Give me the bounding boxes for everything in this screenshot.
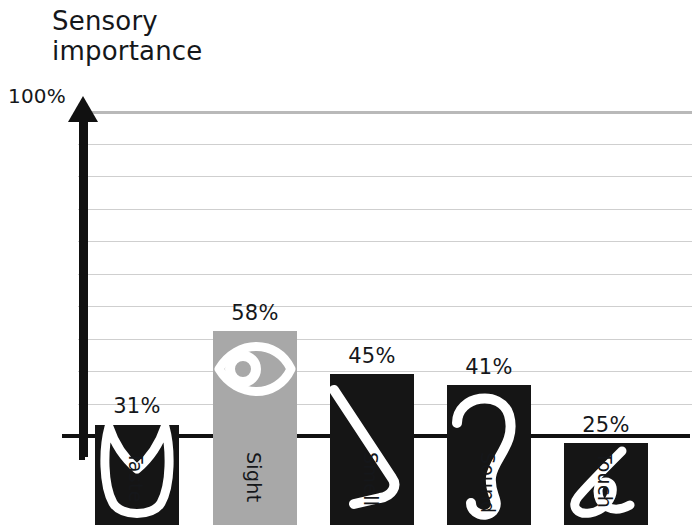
category-label-smell: Smell [361,452,381,506]
category-label-sight: Sight [244,452,264,502]
bars-layer: 31% 58% 45% [0,0,692,525]
bar-value-label-taste: 31% [95,394,179,418]
bar-value-label-sight: 58% [213,301,297,325]
sensory-importance-chart: Sensory importance 100% 31% 58% [0,0,692,525]
category-label-touch: Touch [595,452,615,508]
category-label-sound: Sound [478,452,498,513]
category-label-taste: Taste [126,452,146,503]
y-axis-origin-tick [79,438,85,460]
bar-value-label-sound: 41% [447,355,531,379]
bar-value-label-touch: 25% [564,413,648,437]
bar-value-label-smell: 45% [330,344,414,368]
